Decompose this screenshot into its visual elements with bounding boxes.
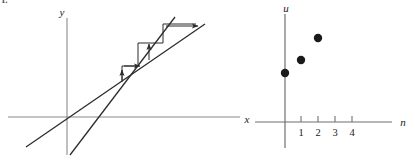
data-point-0 (281, 69, 289, 77)
figure-root: 1. (0, 0, 415, 161)
cobweb-x-axis-label: x (244, 113, 250, 125)
cobweb-y-axis-label: y (59, 6, 65, 18)
data-point-2 (314, 34, 322, 42)
cobweb-svg: y x (0, 0, 260, 161)
map-line (70, 17, 175, 155)
tick-label-n-2: 2 (315, 127, 320, 138)
tick-label-n-1: 1 (298, 127, 303, 138)
data-point-1 (297, 56, 305, 64)
tick-label-n-4: 4 (349, 127, 355, 138)
sequence-n-axis-label: n (400, 116, 406, 128)
sequence-u-axis-label: u (283, 2, 289, 14)
identity-line (26, 24, 205, 147)
sequence-panel: 1 2 3 4 u n (255, 0, 415, 161)
sequence-svg: 1 2 3 4 u n (255, 0, 415, 161)
tick-label-n-3: 3 (332, 127, 337, 138)
cobweb-panel: y x (0, 0, 260, 161)
cobweb-step-2 (138, 43, 163, 66)
